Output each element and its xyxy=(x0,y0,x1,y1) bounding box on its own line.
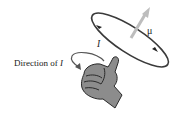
direction-label: Direction of I xyxy=(14,59,63,68)
right-hand-icon xyxy=(81,57,122,108)
mu-label: μ xyxy=(147,26,152,36)
direction-var: I xyxy=(60,58,63,68)
current-label: I xyxy=(97,40,100,50)
loop-arrow-right-icon xyxy=(152,47,158,52)
direction-prefix: Direction of xyxy=(14,58,60,68)
